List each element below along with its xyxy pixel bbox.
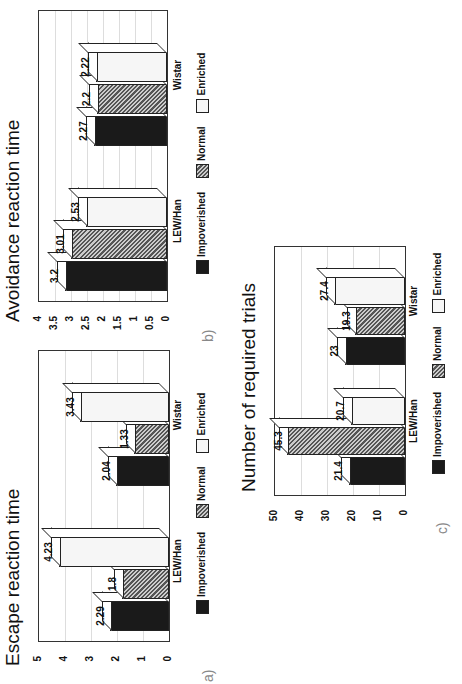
value-label: 21.4 — [333, 451, 344, 491]
y-tick: 0 — [160, 316, 171, 342]
value-label: 1.8 — [107, 564, 118, 604]
y-tick: 0 — [398, 510, 409, 536]
legend-item-impoverished: Impoverished — [196, 532, 209, 614]
panel-label: a) — [200, 670, 216, 682]
plot-area: 2.29 1.8 4.23 2.04 1.33 3.43 — [38, 350, 170, 642]
legend-item-enriched: Enriched — [196, 53, 209, 113]
legend-item-normal: Normal — [432, 327, 445, 378]
plot-area: 21.4 45.3 20.7 23 19.3 27.4 — [274, 246, 406, 496]
y-tick: 0.5 — [144, 316, 155, 342]
y-tick: 50 — [268, 510, 279, 536]
panel-label: c) — [434, 522, 450, 534]
y-tick: 4 — [58, 656, 69, 682]
x-category: Wistar — [172, 380, 183, 450]
y-tick: 3.5 — [48, 316, 59, 342]
y-tick: 10 — [372, 510, 383, 536]
panel-label: b) — [200, 330, 216, 342]
legend-item-normal: Normal — [196, 467, 209, 518]
value-label: 2.22 — [80, 47, 91, 87]
bar-lewhan-normal — [71, 229, 167, 259]
legend-item-impoverished: Impoverished — [432, 392, 445, 474]
value-label: 3.43 — [65, 387, 76, 427]
y-tick: 4 — [32, 316, 43, 342]
x-category: LEW/Han — [172, 526, 183, 596]
y-tick: 30 — [320, 510, 331, 536]
bar-wistar-normal — [97, 84, 167, 114]
x-category: LEW/Han — [408, 386, 419, 456]
legend: Impoverished Normal Enriched — [196, 393, 209, 614]
x-category: LEW/Han — [172, 186, 183, 256]
bar-wistar-enriched — [96, 52, 167, 82]
value-label: 3.01 — [55, 224, 66, 264]
legend: Impoverished Normal Enriched — [432, 253, 445, 474]
bar-wistar-normal — [134, 424, 169, 454]
bar-lewhan-enriched — [351, 397, 405, 425]
value-label: 2.53 — [70, 192, 81, 232]
bar-wistar-impoverished — [345, 337, 405, 365]
bar-lewhan-enriched — [86, 197, 167, 227]
bar-lewhan-normal — [122, 569, 169, 599]
bar-wistar-enriched — [80, 392, 169, 422]
y-tick: 1 — [136, 656, 147, 682]
x-category: Wistar — [408, 266, 419, 336]
bar-lewhan-impoverished — [349, 457, 405, 485]
x-category: Wistar — [172, 40, 183, 110]
y-tick: 1.5 — [112, 316, 123, 342]
chart-avoidance-reaction-time: Avoidance reaction time b) 4 3.5 3 2.5 2… — [0, 4, 228, 344]
chart-title: Number of required trials — [238, 283, 260, 492]
legend-item-impoverished: Impoverished — [196, 192, 209, 274]
value-label: 2.04 — [101, 451, 112, 491]
y-tick: 3 — [84, 656, 95, 682]
value-label: 20.7 — [335, 391, 346, 431]
y-tick: 2 — [96, 316, 107, 342]
bar-wistar-normal — [355, 307, 405, 335]
bar-lewhan-impoverished — [65, 261, 167, 291]
chart-title: Escape reaction time — [2, 489, 24, 666]
value-label: 27.4 — [319, 271, 330, 311]
chart-escape-reaction-time: Escape reaction time a) 5 4 3 2 1 0 2.29… — [0, 344, 228, 684]
legend: Impoverished Normal Enriched — [196, 53, 209, 274]
legend-item-normal: Normal — [196, 127, 209, 178]
y-tick: 2.5 — [80, 316, 91, 342]
chart-title: Avoidance reaction time — [2, 120, 24, 322]
y-tick: 40 — [294, 510, 305, 536]
value-label: 2.29 — [95, 596, 106, 636]
plot-area: 3.2 3.01 2.53 2.27 2.2 2.22 — [38, 10, 168, 302]
chart-number-of-required-trials: Number of required trials c) 50 40 30 20… — [236, 120, 462, 540]
y-tick: 20 — [346, 510, 357, 536]
bar-lewhan-normal — [287, 427, 405, 455]
y-tick: 3 — [64, 316, 75, 342]
bar-wistar-impoverished — [116, 456, 169, 486]
value-label: 1.33 — [119, 419, 130, 459]
legend-item-enriched: Enriched — [432, 253, 445, 313]
value-label: 19.3 — [341, 301, 352, 341]
y-tick: 1 — [128, 316, 139, 342]
value-label: 4.23 — [43, 532, 54, 572]
bar-lewhan-impoverished — [110, 601, 169, 631]
y-tick: 2 — [110, 656, 121, 682]
bar-wistar-impoverished — [94, 116, 167, 146]
y-tick: 5 — [32, 656, 43, 682]
value-label: 23 — [329, 331, 340, 371]
y-tick: 0 — [162, 656, 173, 682]
legend-item-enriched: Enriched — [196, 393, 209, 453]
value-label: 45.3 — [273, 421, 284, 461]
bar-lewhan-enriched — [59, 537, 169, 567]
